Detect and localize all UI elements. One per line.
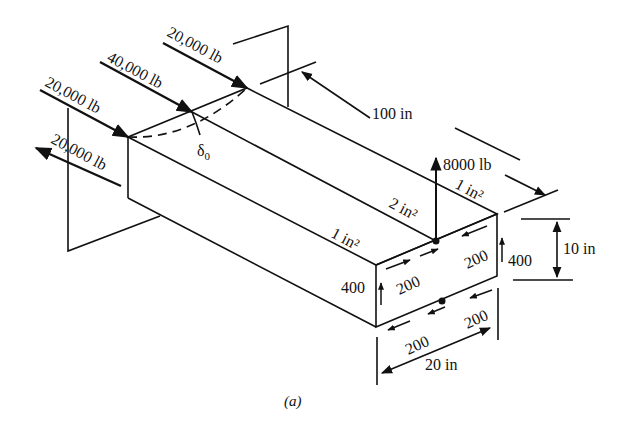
deflection-label: δ0 (197, 143, 210, 162)
length-dimension-label: 100 in (372, 106, 412, 122)
load-label-vertical: 8000 lb (443, 157, 491, 173)
height-dimension-label: 10 in (563, 241, 595, 257)
bottom-flange-point (439, 298, 446, 305)
beam-diagram (0, 0, 632, 434)
shear-label-left-web: 400 (341, 280, 365, 296)
shear-label-right-web: 400 (508, 253, 532, 269)
top-flange-point (433, 238, 440, 245)
width-dimension-label: 20 in (425, 357, 457, 373)
figure-caption: (a) (284, 394, 302, 409)
